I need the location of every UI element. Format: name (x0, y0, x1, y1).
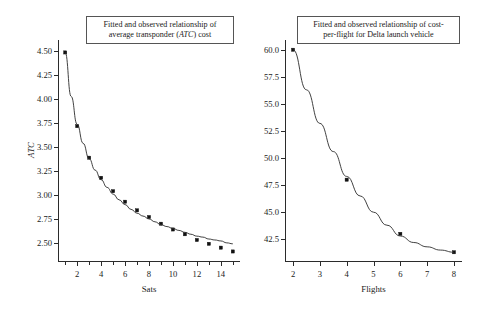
x-tick-label-right-5: 7 (425, 269, 429, 279)
x-tick-label-right-4: 6 (398, 269, 402, 279)
data-point-left-7 (147, 215, 150, 218)
x-tick-label-right-1: 3 (318, 269, 322, 279)
x-tick-label-right-6: 8 (452, 269, 456, 279)
x-tick-right-4 (400, 262, 401, 266)
chart-title-right-line2: per-flight for Delta launch vehicle (323, 30, 433, 39)
y-tick-label-left-4: 3.50 (37, 142, 52, 152)
y-tick-label-right-4: 52.5 (264, 126, 279, 136)
panel-average-transponder-cost: Fitted and observed relationship of aver… (0, 0, 250, 312)
x-tick-label-right-3: 5 (371, 269, 375, 279)
x-tick-label-left-3: 8 (147, 269, 151, 279)
chart-title-left-line2-post: ) cost (193, 30, 211, 39)
x-tick-label-left-6: 14 (217, 269, 226, 279)
x-tick-right-6 (454, 262, 455, 266)
data-point-left-12 (207, 242, 210, 245)
x-tick-label-left-0: 2 (75, 269, 79, 279)
x-tick-minor-left-5 (185, 262, 186, 265)
chart-title-right-line1: Fitted and observed relationship of cost… (313, 20, 444, 29)
y-tick-label-left-8: 4.50 (37, 46, 52, 56)
plot-area-right: 42.545.047.550.052.555.057.560.0 2345678… (285, 40, 462, 262)
fitted-curve-right (293, 50, 454, 253)
y-tick-label-left-7: 4.25 (37, 70, 52, 80)
x-tick-left-4 (173, 262, 174, 266)
y-axis-title-left: ATC (26, 130, 36, 170)
x-tick-right-1 (320, 262, 321, 266)
y-tick-label-right-3: 50.0 (264, 153, 279, 163)
x-tick-label-left-4: 10 (169, 269, 178, 279)
y-tick-label-right-2: 47.5 (264, 180, 279, 190)
y-tick-label-right-7: 60.0 (264, 45, 279, 55)
y-tick-label-left-2: 3.00 (37, 190, 52, 200)
x-tick-minor-left-3 (137, 262, 138, 265)
y-tick-label-left-1: 2.75 (37, 214, 52, 224)
x-tick-left-2 (125, 262, 126, 266)
y-tick-label-left-0: 2.50 (37, 238, 52, 248)
y-tick-label-right-1: 45.0 (264, 207, 279, 217)
y-tick-label-left-5: 3.75 (37, 118, 52, 128)
fitted-curve-left (65, 52, 233, 243)
x-tick-label-right-2: 4 (345, 269, 349, 279)
data-point-right-1 (345, 178, 348, 181)
y-tick-label-left-6: 4.00 (37, 94, 52, 104)
x-axis-title-right: Flights (361, 284, 385, 294)
chart-title-left-line1: Fitted and observed relationship of (104, 20, 217, 29)
x-tick-left-0 (77, 262, 78, 266)
x-tick-minor-left-4 (161, 262, 162, 265)
x-tick-label-right-0: 2 (291, 269, 295, 279)
x-tick-minor-left-7 (233, 262, 234, 265)
x-tick-minor-left-0 (65, 262, 66, 265)
chart-title-box-right: Fitted and observed relationship of cost… (297, 16, 460, 44)
x-tick-left-1 (101, 262, 102, 266)
x-tick-minor-left-2 (113, 262, 114, 265)
y-tick-label-right-5: 55.0 (264, 99, 279, 109)
x-tick-right-0 (293, 262, 294, 266)
x-tick-label-left-2: 6 (123, 269, 127, 279)
plot-area-left: 2.502.753.003.253.503.754.004.254.50 246… (58, 40, 240, 262)
y-tick-label-left-3: 3.25 (37, 166, 52, 176)
data-layer-right (285, 40, 462, 262)
x-tick-label-left-1: 4 (99, 269, 103, 279)
panel-delta-cost-per-flight: Fitted and observed relationship of cost… (250, 0, 492, 312)
x-tick-left-5 (197, 262, 198, 266)
x-tick-label-left-5: 12 (193, 269, 202, 279)
chart-title-box-left: Fitted and observed relationship of aver… (86, 16, 234, 44)
data-point-left-4 (111, 190, 114, 193)
chart-title-left-line2-pre: average transponder ( (109, 30, 179, 39)
x-tick-right-2 (347, 262, 348, 266)
x-tick-right-3 (374, 262, 375, 266)
x-tick-minor-left-1 (89, 262, 90, 265)
y-tick-label-right-6: 57.5 (264, 72, 279, 82)
y-tick-label-right-0: 42.5 (264, 234, 279, 244)
x-axis-title-left: Sats (142, 284, 157, 294)
data-point-left-13 (219, 246, 222, 249)
data-point-left-11 (195, 238, 198, 241)
chart-title-left-emphasis: ATC (179, 30, 194, 39)
x-tick-minor-left-6 (209, 262, 210, 265)
data-point-left-10 (183, 233, 186, 236)
data-point-left-6 (135, 209, 138, 212)
x-tick-left-6 (221, 262, 222, 266)
data-layer-left (58, 40, 240, 262)
data-point-right-2 (399, 232, 402, 235)
data-point-left-5 (123, 200, 126, 203)
data-point-left-14 (231, 250, 234, 253)
figure-two-panel-cost-curves: Fitted and observed relationship of aver… (0, 0, 492, 312)
x-tick-right-5 (427, 262, 428, 266)
x-tick-left-3 (149, 262, 150, 266)
